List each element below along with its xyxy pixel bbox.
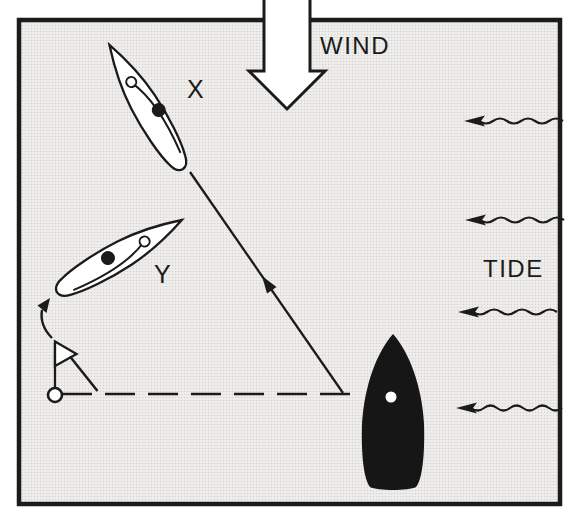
wind-label: WIND [320,32,390,59]
black-boat-deck-dot [386,392,397,403]
mark-circle [48,388,62,402]
tide-label: TIDE [483,255,544,282]
sailing-diagram: WIND TIDE X Y [0,0,577,529]
boat-y-label: Y [154,260,171,288]
scanned-figure-page: WIND TIDE X Y [0,0,577,529]
boat-x-label: X [187,75,204,103]
